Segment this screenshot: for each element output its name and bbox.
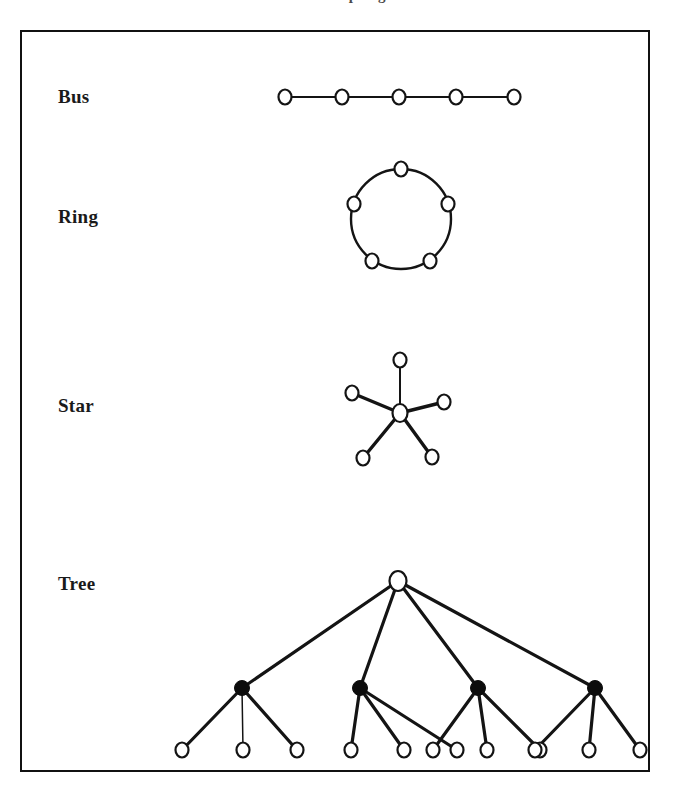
topology-label-ring: Ring bbox=[58, 206, 98, 228]
figure-caption-text: Network Topologies bbox=[0, 0, 673, 4]
figure-caption-clipped: Network Topologies bbox=[0, 0, 673, 13]
figure-frame-border bbox=[20, 30, 650, 772]
figure-page: Network Topologies Bus Ring Star Tree bbox=[0, 0, 673, 792]
topology-label-bus: Bus bbox=[58, 86, 90, 108]
topology-label-tree: Tree bbox=[58, 573, 95, 595]
topology-label-star: Star bbox=[58, 395, 94, 417]
